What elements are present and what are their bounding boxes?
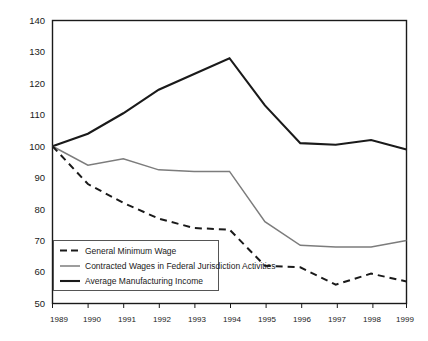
x-tick-label: 1991 [118, 315, 136, 324]
x-tick-label: 1995 [258, 315, 276, 324]
series-line-average-manufacturing-income [53, 58, 407, 149]
x-tick-label: 1990 [83, 315, 101, 324]
x-tick-label: 1992 [153, 315, 171, 324]
y-tick-label: 100 [29, 141, 45, 152]
y-tick-label: 70 [34, 235, 45, 246]
x-axis: 1989 1990 1991 1992 1993 1994 1995 1996 … [50, 315, 414, 324]
legend-item-label: General Minimum Wage [85, 246, 177, 256]
y-tick-label: 130 [29, 46, 45, 57]
y-tick-label: 110 [30, 109, 45, 120]
x-tick-label: 1996 [293, 315, 311, 324]
x-tick-label: 1997 [328, 315, 346, 324]
chart-legend: General Minimum Wage Contracted Wages in… [54, 241, 276, 291]
x-tick-label: 1994 [223, 315, 241, 324]
x-tick-label: 1989 [50, 315, 68, 324]
y-tick-label: 120 [29, 78, 45, 89]
line-chart: 140 130 120 110 100 90 80 70 60 50 [0, 0, 428, 341]
y-axis: 140 130 120 110 100 90 80 70 60 50 [29, 15, 45, 309]
y-tick-label: 90 [34, 172, 45, 183]
y-tick-label: 80 [34, 204, 45, 215]
chart-canvas: 140 130 120 110 100 90 80 70 60 50 [0, 0, 428, 341]
legend-item-label: Contracted Wages in Federal Jurisdiction… [85, 261, 276, 271]
legend-item-label: Average Manufacturing Income [85, 276, 203, 286]
x-tick-label: 1998 [363, 315, 381, 324]
y-tick-label: 140 [29, 15, 45, 26]
x-tick-label: 1993 [188, 315, 206, 324]
series-line-contracted-wages [53, 146, 407, 247]
x-tick-label: 1999 [396, 315, 414, 324]
y-tick-label: 60 [34, 266, 45, 277]
y-tick-label: 50 [34, 298, 45, 309]
